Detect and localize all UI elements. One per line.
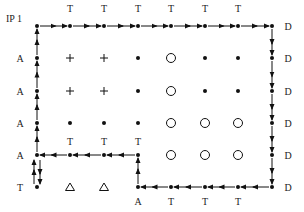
state-dot xyxy=(136,153,140,157)
state-dot xyxy=(136,89,140,93)
state-dot xyxy=(169,24,173,28)
state-dot xyxy=(136,24,140,28)
state-dot xyxy=(35,56,39,60)
label-t: T xyxy=(168,196,174,207)
label-a: A xyxy=(16,150,24,161)
label-t: T xyxy=(202,196,208,207)
state-dot xyxy=(35,185,39,189)
label-t: T xyxy=(235,3,241,14)
circle-marker xyxy=(167,87,176,96)
state-dot xyxy=(136,56,140,60)
label-ip-1: IP 1 xyxy=(6,13,22,24)
state-dot xyxy=(136,185,140,189)
state-dot xyxy=(68,153,72,157)
circle-marker xyxy=(234,119,243,128)
label-t: T xyxy=(135,136,141,147)
state-dot xyxy=(136,121,140,125)
label-a: A xyxy=(16,53,24,64)
plus-marker xyxy=(100,87,108,95)
state-dot xyxy=(68,24,72,28)
label-t: T xyxy=(101,136,107,147)
state-dot xyxy=(270,24,274,28)
state-dot xyxy=(203,89,207,93)
state-dot xyxy=(270,153,274,157)
label-d: D xyxy=(284,118,291,129)
label-d: D xyxy=(284,86,291,97)
circle-marker xyxy=(167,119,176,128)
label-t: T xyxy=(168,3,174,14)
label-d: D xyxy=(284,53,291,64)
state-dot xyxy=(270,89,274,93)
triangle-marker xyxy=(100,183,109,191)
state-dot xyxy=(203,24,207,28)
grid-labels: IP 1TTTTTTDDDDDDAAAATTTTATTT xyxy=(6,3,292,207)
state-dot xyxy=(203,56,207,60)
state-dot xyxy=(35,24,39,28)
label-t: T xyxy=(67,3,73,14)
plus-marker xyxy=(66,87,74,95)
circle-marker xyxy=(201,151,210,160)
label-a: A xyxy=(134,196,142,207)
circle-marker xyxy=(167,151,176,160)
state-dot xyxy=(68,121,72,125)
label-d: D xyxy=(284,21,291,32)
state-dot xyxy=(35,121,39,125)
state-dot xyxy=(236,56,240,60)
label-t: T xyxy=(67,136,73,147)
arrow-path xyxy=(34,26,272,187)
plus-marker xyxy=(66,54,74,62)
plus-marker xyxy=(100,54,108,62)
trajectory-grid-diagram: IP 1TTTTTTDDDDDDAAAATTTTATTT xyxy=(0,0,304,212)
state-dot xyxy=(203,185,207,189)
circle-marker xyxy=(167,54,176,63)
label-a: A xyxy=(16,86,24,97)
state-dot xyxy=(102,121,106,125)
grid-cells xyxy=(35,24,274,191)
circle-marker xyxy=(234,151,243,160)
state-dot xyxy=(102,153,106,157)
label-t: T xyxy=(101,3,107,14)
label-d: D xyxy=(284,150,291,161)
circle-marker xyxy=(201,119,210,128)
triangle-marker xyxy=(66,183,75,191)
state-dot xyxy=(270,56,274,60)
state-dot xyxy=(35,89,39,93)
state-dot xyxy=(236,89,240,93)
label-a: A xyxy=(16,118,24,129)
state-dot xyxy=(236,185,240,189)
label-t: T xyxy=(202,3,208,14)
label-t: T xyxy=(17,182,23,193)
state-dot xyxy=(169,185,173,189)
label-d: D xyxy=(284,182,291,193)
label-t: T xyxy=(235,196,241,207)
state-dot xyxy=(102,24,106,28)
label-t: T xyxy=(135,3,141,14)
state-dot xyxy=(236,24,240,28)
state-dot xyxy=(270,121,274,125)
state-dot xyxy=(270,185,274,189)
state-dot xyxy=(35,153,39,157)
